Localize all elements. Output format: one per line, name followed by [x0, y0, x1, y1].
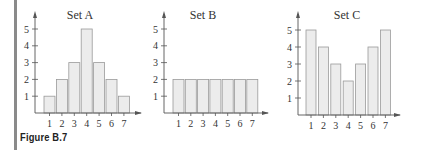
y-tick-label: 4 — [153, 40, 158, 51]
y-tick-label: 2 — [153, 74, 158, 85]
bar — [343, 81, 353, 115]
y-tick-label: 3 — [153, 57, 158, 68]
x-tick-label: 6 — [109, 118, 114, 129]
x-tick-label: 2 — [59, 118, 64, 129]
bar — [222, 79, 233, 113]
x-tick-label: 4 — [84, 118, 89, 129]
y-tick-label: 1 — [287, 93, 292, 104]
bar — [94, 63, 105, 113]
bar — [306, 30, 316, 115]
y-tick-label: 4 — [24, 40, 29, 51]
y-tick-label: 2 — [287, 76, 292, 87]
chart-set-a: Set A123456712345 — [24, 8, 142, 129]
y-tick-label: 1 — [24, 91, 29, 102]
figure-caption: Figure B.7 — [20, 131, 67, 143]
x-tick-label: 7 — [121, 118, 126, 129]
x-tick-label: 5 — [97, 118, 102, 129]
x-tick-label: 3 — [201, 118, 206, 129]
chart-title: Set A — [67, 8, 94, 22]
bar — [380, 30, 390, 115]
bar — [69, 63, 80, 113]
bar — [106, 79, 117, 113]
x-tick-label: 7 — [250, 118, 255, 129]
bar — [247, 79, 258, 113]
bar — [81, 29, 92, 113]
bar — [331, 64, 341, 115]
x-tick-label: 5 — [358, 120, 363, 131]
x-tick-label: 3 — [333, 120, 338, 131]
x-tick-label: 6 — [371, 120, 376, 131]
x-tick-label: 4 — [346, 120, 351, 131]
y-tick-label: 1 — [153, 91, 158, 102]
y-tick-label: 5 — [24, 24, 29, 35]
bar — [44, 96, 55, 113]
x-tick-label: 1 — [176, 118, 181, 129]
bar — [318, 47, 328, 115]
figure-charts: Set A123456712345 Set B123456712345 Set … — [0, 0, 423, 150]
bar — [118, 96, 129, 113]
chart-title: Set C — [334, 8, 360, 22]
chart-set-b: Set B123456712345 — [153, 8, 269, 129]
x-tick-label: 2 — [188, 118, 193, 129]
bar — [368, 47, 378, 115]
bar — [173, 79, 184, 113]
y-tick-label: 3 — [24, 57, 29, 68]
x-tick-label: 5 — [225, 118, 230, 129]
bar — [235, 79, 246, 113]
x-tick-label: 4 — [213, 118, 218, 129]
y-tick-label: 3 — [287, 59, 292, 70]
x-tick-label: 1 — [309, 120, 314, 131]
x-tick-label: 3 — [72, 118, 77, 129]
x-tick-label: 2 — [321, 120, 326, 131]
chart-title: Set B — [190, 8, 216, 22]
x-tick-label: 1 — [47, 118, 52, 129]
x-tick-label: 6 — [238, 118, 243, 129]
bar — [210, 79, 221, 113]
bar — [356, 64, 366, 115]
y-tick-label: 5 — [153, 24, 158, 35]
chart-set-c: Set C123456712345 — [287, 8, 401, 131]
x-tick-label: 7 — [383, 120, 388, 131]
bar — [185, 79, 196, 113]
y-tick-label: 5 — [287, 25, 292, 36]
bar — [198, 79, 209, 113]
y-tick-label: 4 — [287, 42, 292, 53]
y-tick-label: 2 — [24, 74, 29, 85]
bar — [56, 79, 67, 113]
